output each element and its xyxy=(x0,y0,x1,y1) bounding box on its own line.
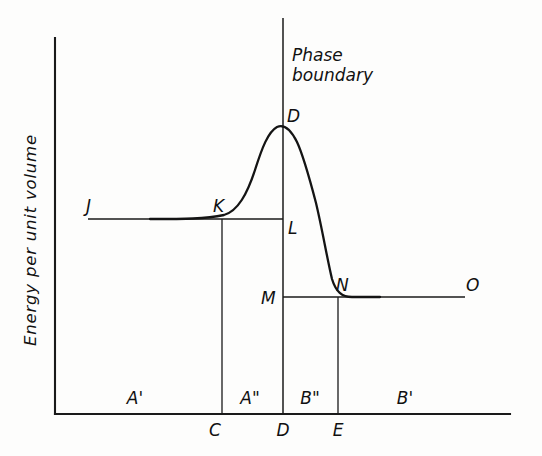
phase-boundary-label-line2: boundary xyxy=(292,65,374,85)
point-label-d-peak: D xyxy=(287,106,300,126)
region-label-a-prime: A' xyxy=(126,388,143,408)
phase-boundary-label-line1: Phase xyxy=(292,45,343,65)
point-label-l: L xyxy=(288,218,297,238)
phase-boundary-energy-figure: J K L M N O D Phase boundary A' A" B" B'… xyxy=(0,0,542,456)
region-label-a-double-prime: A" xyxy=(239,388,259,408)
tick-label-e: E xyxy=(333,420,344,440)
point-label-j: J xyxy=(83,196,91,216)
point-label-o: O xyxy=(466,275,479,295)
point-label-k: K xyxy=(213,196,226,216)
point-label-m: M xyxy=(261,288,276,308)
figure-canvas: J K L M N O D Phase boundary A' A" B" B'… xyxy=(0,0,542,456)
region-label-b-double-prime: B" xyxy=(300,388,319,408)
y-axis-title: Energy per unit volume xyxy=(21,134,40,346)
interfacial-energy-curve xyxy=(150,126,380,297)
point-label-n: N xyxy=(336,275,349,295)
region-label-b-prime: B' xyxy=(397,388,413,408)
tick-label-c: C xyxy=(209,420,221,440)
tick-label-d: D xyxy=(276,420,289,440)
